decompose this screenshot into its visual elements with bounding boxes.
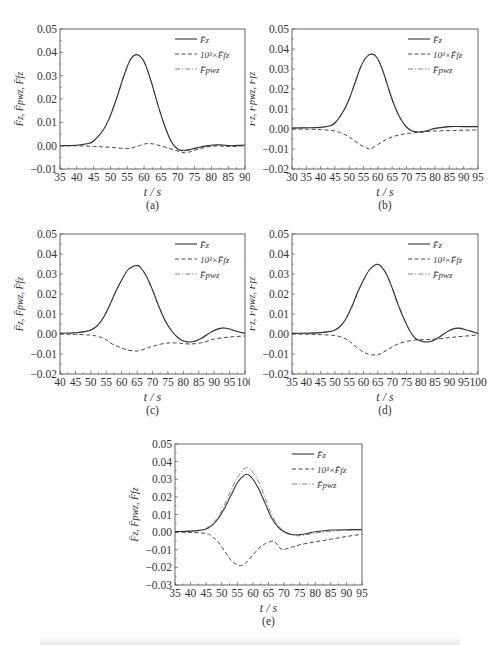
legend-fpwz: F̄pwz bbox=[432, 65, 453, 75]
y-tick-label: −0.02 bbox=[262, 368, 289, 380]
series-10-3-x-ffz bbox=[292, 334, 478, 355]
legend: F̄z10³×F̄fzF̄pwz bbox=[408, 240, 463, 280]
x-axis-label: t / s bbox=[376, 185, 394, 199]
legend: F̄z10³×F̄fzF̄pwz bbox=[408, 35, 463, 75]
y-tick-label: 0.03 bbox=[37, 70, 57, 82]
x-tick-label: 45 bbox=[70, 376, 82, 388]
x-tick-label: 50 bbox=[216, 587, 228, 599]
x-tick-label: 55 bbox=[358, 171, 370, 183]
legend-fz: F̄z bbox=[432, 240, 442, 250]
y-tick-label: 0.01 bbox=[37, 308, 57, 320]
series-10-3-x-ffz bbox=[175, 532, 362, 566]
series-fpwz bbox=[175, 468, 362, 536]
x-tick-label: 75 bbox=[294, 587, 306, 599]
x-tick-label: 45 bbox=[200, 587, 212, 599]
x-tick-label: 75 bbox=[415, 171, 427, 183]
legend-ffz: 10³×F̄fz bbox=[317, 465, 347, 475]
y-tick-label: −0.01 bbox=[262, 143, 289, 155]
x-tick-label: 65 bbox=[263, 587, 275, 599]
x-tick-label: 70 bbox=[386, 376, 398, 388]
x-tick-label: 35 bbox=[301, 171, 313, 183]
series-10-3-x-ffz bbox=[292, 129, 478, 149]
x-tick-label: 50 bbox=[329, 376, 341, 388]
x-axis-label: t / s bbox=[144, 390, 162, 404]
legend-ffz: 10³×F̄fz bbox=[200, 255, 230, 265]
x-tick-label: 60 bbox=[116, 376, 128, 388]
y-tick-label: 0.02 bbox=[269, 83, 289, 95]
chart-panel-a: 354045505560657075808590−0.010.000.010.0… bbox=[0, 0, 250, 212]
x-axis-label: t / s bbox=[376, 390, 394, 404]
y-tick-label: 0.04 bbox=[37, 46, 57, 58]
chart-panel-e: 35404550556065707580859095−0.03−0.02−0.0… bbox=[115, 415, 385, 635]
x-tick-label: 55 bbox=[122, 171, 134, 183]
x-tick-label: 60 bbox=[247, 587, 259, 599]
x-axis-label: t / s bbox=[260, 601, 278, 615]
y-tick-label: −0.01 bbox=[30, 163, 57, 175]
y-tick-label: 0.00 bbox=[37, 140, 57, 152]
x-tick-label: 95 bbox=[472, 171, 484, 183]
x-tick-label: 100 bbox=[469, 376, 487, 388]
x-axis-label: t / s bbox=[144, 185, 162, 199]
y-tick-label: 0.03 bbox=[37, 268, 57, 280]
y-tick-label: −0.02 bbox=[145, 561, 172, 573]
x-tick-label: 85 bbox=[325, 587, 337, 599]
x-tick-label: 75 bbox=[162, 376, 174, 388]
series-10-3-x-ffz bbox=[60, 334, 245, 351]
x-tick-label: 90 bbox=[208, 376, 220, 388]
x-tick-label: 95 bbox=[224, 376, 236, 388]
y-tick-label: 0.00 bbox=[37, 328, 57, 340]
x-tick-label: 80 bbox=[206, 171, 218, 183]
legend: F̄z10³×F̄fzF̄pwz bbox=[175, 35, 230, 75]
x-tick-label: 80 bbox=[429, 171, 441, 183]
legend: F̄z10³×F̄fzF̄pwz bbox=[292, 450, 347, 490]
y-tick-label: 0.03 bbox=[269, 63, 289, 75]
x-tick-label: 50 bbox=[343, 171, 355, 183]
legend-fz: F̄z bbox=[316, 450, 326, 460]
x-tick-label: 65 bbox=[155, 171, 167, 183]
y-tick-label: −0.01 bbox=[30, 348, 57, 360]
x-tick-label: 45 bbox=[315, 376, 327, 388]
y-axis-label: F̄z, F̄pwz, F̄fz bbox=[14, 72, 25, 128]
x-tick-label: 75 bbox=[401, 376, 413, 388]
y-tick-label: 0.02 bbox=[152, 491, 172, 503]
x-tick-label: 90 bbox=[444, 376, 456, 388]
y-axis-label: F̄z, F̄pwz, F̄fz bbox=[250, 72, 257, 128]
y-axis-label: F̄z, F̄pwz, F̄fz bbox=[250, 277, 257, 333]
x-tick-label: 95 bbox=[458, 376, 470, 388]
y-tick-label: 0.00 bbox=[152, 526, 172, 538]
x-tick-label: 70 bbox=[172, 171, 184, 183]
legend-fpwz: F̄pwz bbox=[316, 480, 337, 490]
y-axis-label: F̄z, F̄pwz, F̄fz bbox=[14, 277, 25, 333]
y-tick-label: 0.01 bbox=[269, 103, 289, 115]
x-tick-label: 60 bbox=[358, 376, 370, 388]
x-tick-label: 70 bbox=[147, 376, 159, 388]
y-tick-label: 0.02 bbox=[37, 288, 57, 300]
x-tick-label: 45 bbox=[329, 171, 341, 183]
y-tick-label: 0.01 bbox=[152, 509, 172, 521]
chart-panel-d: 35404550556065707580859095100−0.02−0.010… bbox=[250, 205, 500, 417]
legend-ffz: 10³×F̄fz bbox=[433, 255, 463, 265]
x-tick-label: 80 bbox=[415, 376, 427, 388]
legend-fz: F̄z bbox=[199, 35, 209, 45]
x-tick-label: 65 bbox=[386, 171, 398, 183]
x-tick-label: 100 bbox=[236, 376, 250, 388]
y-tick-label: −0.01 bbox=[145, 544, 172, 556]
x-tick-label: 65 bbox=[131, 376, 143, 388]
panel-label: (e) bbox=[262, 615, 275, 628]
y-tick-label: −0.02 bbox=[262, 163, 289, 175]
x-tick-label: 95 bbox=[356, 587, 368, 599]
legend-fz: F̄z bbox=[199, 240, 209, 250]
y-tick-label: 0.01 bbox=[269, 308, 289, 320]
y-tick-label: 0.05 bbox=[37, 23, 57, 35]
y-axis-label: F̄z, F̄pwz, F̄fz bbox=[129, 487, 140, 543]
x-tick-label: 70 bbox=[401, 171, 413, 183]
x-tick-label: 55 bbox=[101, 376, 113, 388]
y-tick-label: −0.02 bbox=[30, 368, 57, 380]
x-tick-label: 90 bbox=[239, 171, 250, 183]
x-tick-label: 80 bbox=[310, 587, 322, 599]
x-tick-label: 65 bbox=[372, 376, 384, 388]
legend-ffz: 10³×F̄fz bbox=[200, 50, 230, 60]
y-tick-label: 0.05 bbox=[269, 23, 289, 35]
chart-panel-b: 3035404550556065707580859095−0.02−0.010.… bbox=[250, 0, 500, 212]
y-tick-label: 0.04 bbox=[269, 43, 289, 55]
